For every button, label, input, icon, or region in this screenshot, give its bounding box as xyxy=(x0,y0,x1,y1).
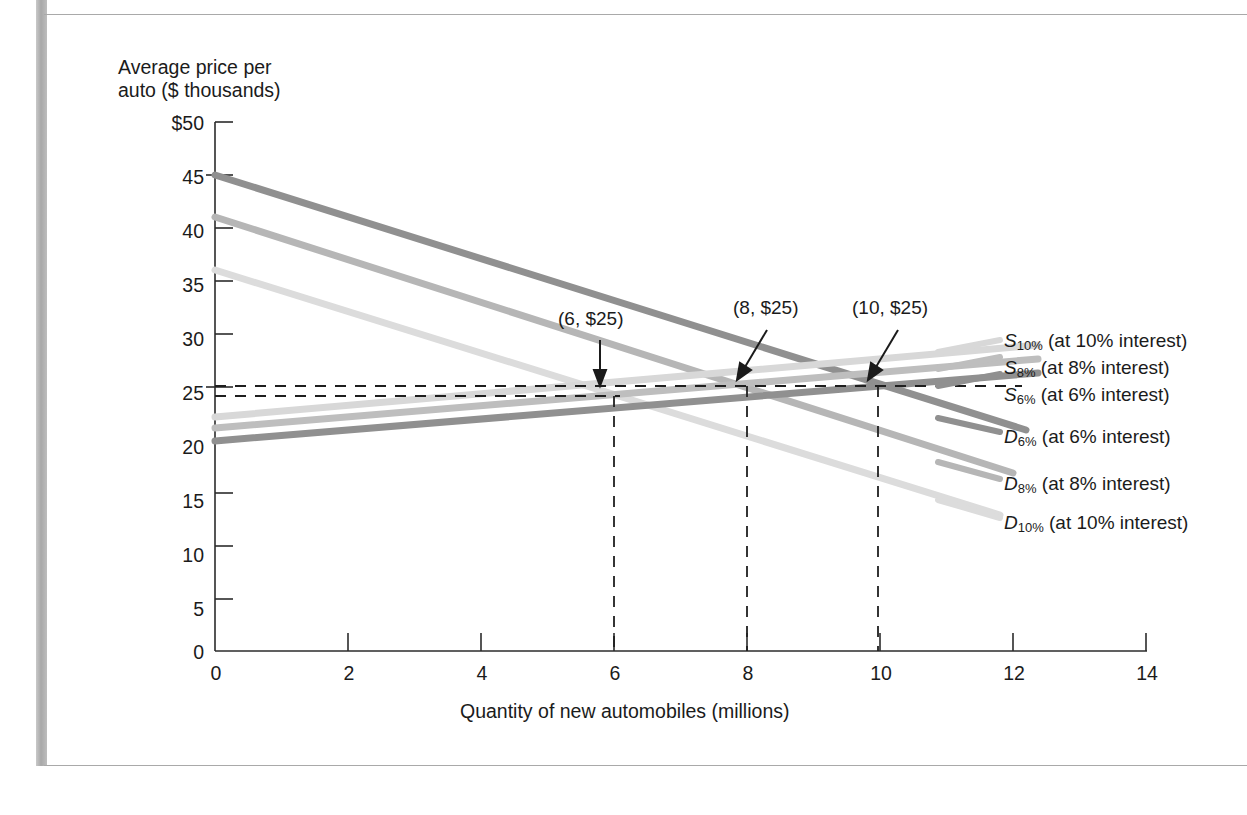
legend-entry-s10: S10% (at 10% interest) xyxy=(1004,330,1187,353)
legend-text: (at 8% interest) xyxy=(1037,473,1171,494)
legend-text: (at 6% interest) xyxy=(1037,426,1171,447)
y-tick-marks xyxy=(206,122,233,599)
legend-subscript: 10% xyxy=(1018,520,1044,535)
figure-page: Average price perauto ($ thousands) Quan… xyxy=(0,0,1247,815)
legend-entry-d10: D10% (at 10% interest) xyxy=(1004,512,1188,535)
legend-text: (at 8% interest) xyxy=(1035,357,1169,378)
arrow-head-8 xyxy=(737,363,751,380)
legend-symbol: S xyxy=(1004,357,1017,378)
legend-text: (at 6% interest) xyxy=(1035,384,1169,405)
legend-entry-d8: D8% (at 8% interest) xyxy=(1004,473,1171,496)
legend-entry-s6: S6% (at 6% interest) xyxy=(1004,384,1170,407)
legend-entry-d6: D6% (at 6% interest) xyxy=(1004,426,1171,449)
legend-entry-s8: S8% (at 8% interest) xyxy=(1004,357,1170,380)
plot-canvas xyxy=(0,0,1247,815)
legend-symbol: S xyxy=(1004,384,1017,405)
legend-subscript: 10% xyxy=(1017,338,1043,353)
economics-supply-demand-chart: Average price perauto ($ thousands) Quan… xyxy=(0,0,1247,815)
legend-text: (at 10% interest) xyxy=(1043,330,1188,351)
legend-symbol: D xyxy=(1004,426,1018,447)
legend-symbol: D xyxy=(1004,473,1018,494)
legend-symbol: D xyxy=(1004,512,1018,533)
arrow-head-10 xyxy=(868,363,882,380)
legend-subscript: 6% xyxy=(1017,392,1036,407)
legend-subscript: 8% xyxy=(1018,481,1037,496)
annotation-point-6: (6, $25) xyxy=(558,308,623,330)
annotation-point-10: (10, $25) xyxy=(852,297,928,319)
legend-subscript: 8% xyxy=(1017,365,1036,380)
annotation-point-8: (8, $25) xyxy=(733,297,798,319)
legend-symbol: S xyxy=(1004,330,1017,351)
legend-text: (at 10% interest) xyxy=(1044,512,1189,533)
legend-subscript: 6% xyxy=(1018,434,1037,449)
